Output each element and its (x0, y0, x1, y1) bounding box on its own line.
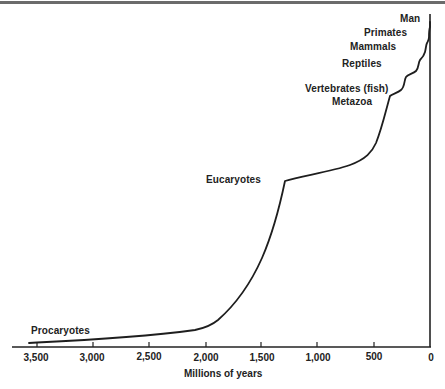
label-reptiles: Reptiles (342, 58, 382, 69)
x-tick-label-2000: 2,000 (193, 352, 218, 363)
label-man: Man (400, 13, 420, 24)
x-tick-label-500: 500 (366, 351, 383, 362)
label-mammals: Mammals (350, 41, 396, 52)
label-eucaryotes: Eucaryotes (206, 174, 261, 185)
label-metazoa: Metazoa (332, 96, 372, 107)
label-primates: Primates (364, 27, 407, 38)
x-tick-label-1000: 1,000 (305, 352, 330, 363)
label-vertebrates: Vertebrates (fish) (305, 83, 389, 94)
label-procaryotes: Procaryotes (31, 325, 90, 336)
x-axis-title: Millions of years (184, 368, 262, 379)
x-tick-label-1500: 1,500 (249, 352, 274, 363)
x-tick-label-3500: 3,500 (23, 352, 48, 363)
x-tick-label-2500: 2,500 (136, 351, 161, 362)
x-tick-label-3000: 3,000 (79, 352, 104, 363)
x-tick-label-0: 0 (428, 352, 434, 363)
